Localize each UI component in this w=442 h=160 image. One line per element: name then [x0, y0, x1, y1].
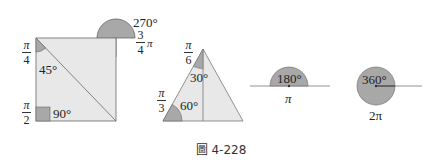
label-180-deg: 180°	[277, 72, 302, 85]
wedge-30	[193, 49, 203, 69]
label-30-deg: 30°	[190, 71, 208, 84]
label-pi-over-3: π 3	[157, 87, 166, 114]
label-pi-over-2: π 2	[22, 99, 31, 126]
label-pi-over-6: π 6	[184, 39, 193, 66]
label-270-deg: 270°	[133, 16, 158, 29]
label-90-deg: 90°	[53, 107, 71, 120]
label-pi-suffix: π	[147, 38, 153, 49]
figure-caption: 圖 4-228	[0, 140, 442, 157]
label-45-deg: 45°	[39, 63, 57, 76]
right-angle-marker	[36, 107, 50, 121]
label-2pi: 2π	[369, 109, 382, 122]
label-360-deg: 360°	[362, 73, 387, 86]
label-three-quarters-pi: 3 4	[136, 29, 145, 56]
label-pi-over-4: π 4	[22, 39, 31, 66]
label-pi: π	[285, 92, 292, 105]
label-60-deg: 60°	[180, 99, 198, 112]
